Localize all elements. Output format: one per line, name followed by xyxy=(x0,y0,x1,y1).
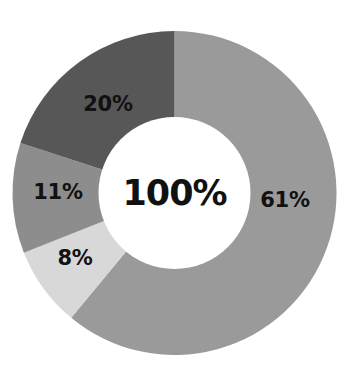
donut-chart-svg: 61%8%11%20% 100% xyxy=(0,0,349,371)
slice-label: 8% xyxy=(57,246,92,270)
slice-label: 20% xyxy=(83,92,133,116)
slice-label: 61% xyxy=(260,188,310,212)
donut-chart: 61%8%11%20% 100% xyxy=(0,0,349,371)
center-total-label: 100% xyxy=(122,173,226,213)
slice-label: 11% xyxy=(33,180,83,204)
